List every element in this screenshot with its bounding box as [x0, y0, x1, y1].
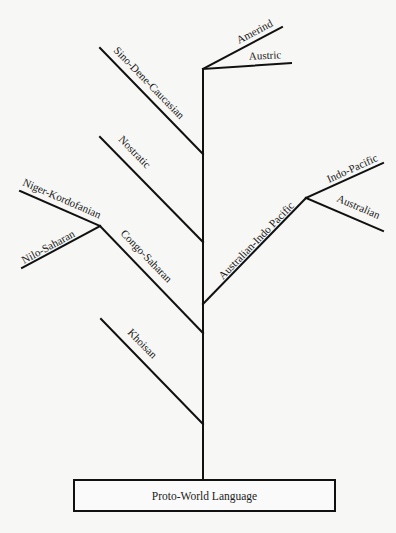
branch-khoisan [101, 319, 203, 424]
label-niger-kordofanian: Niger-Kordofanian [21, 176, 103, 221]
label-australian-indo-pacific: Australian-Indo Pacific [216, 199, 296, 281]
root-node: Proto-World Language [74, 480, 335, 511]
label-congo-saharan: Congo-Saharan [119, 227, 176, 285]
language-tree-diagram: Amerind Austric Sino-Dene-Caucasian Nost… [0, 0, 396, 533]
label-nostratic: Nostratic [117, 133, 154, 170]
label-khoisan: Khoisan [126, 326, 161, 361]
root-label: Proto-World Language [152, 490, 257, 503]
label-australian: Australian [335, 192, 382, 221]
label-sino-dene-caucasian: Sino-Dene-Caucasian [112, 44, 188, 121]
branch-austric [203, 63, 291, 69]
label-austric: Austric [248, 48, 281, 62]
branch-congo-saharan [100, 226, 203, 333]
branch-australian-indo-pacific [203, 198, 306, 304]
branch-nostratic [100, 137, 203, 242]
branch-sino-dene-caucasian [100, 48, 203, 154]
label-nilo-saharan: Nilo-Saharan [19, 227, 77, 266]
